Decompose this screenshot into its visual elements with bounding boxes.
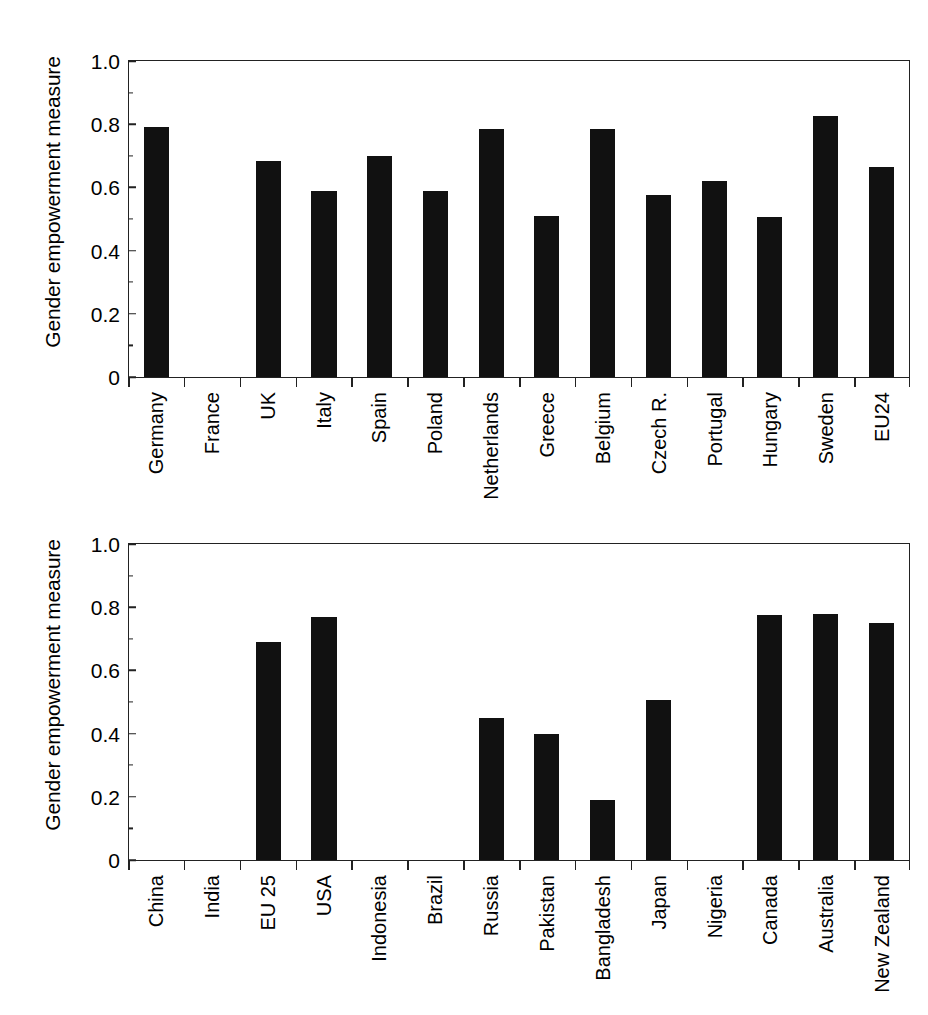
bar-slot — [853, 61, 909, 377]
x-axis-labels-eu: GermanyFranceUKItalySpainPolandNetherlan… — [128, 390, 910, 520]
x-tick-label: Japan — [649, 875, 669, 930]
bar-slot — [519, 61, 575, 377]
x-tick-label: USA — [314, 875, 334, 916]
bar — [479, 718, 504, 860]
bar-slot — [463, 61, 519, 377]
bar-slot — [240, 544, 296, 860]
bar-series-world — [129, 544, 909, 860]
x-tick-mark — [128, 861, 184, 870]
y-tick-mark — [129, 543, 136, 545]
bar-slot — [798, 544, 854, 860]
y-tick-mark — [129, 670, 136, 672]
bar-slot — [296, 544, 352, 860]
plot-area-world: 00.20.40.60.81.0 — [128, 543, 910, 861]
x-tick-label: Spain — [369, 392, 389, 443]
bar-slot — [630, 544, 686, 860]
y-tick-label: 0.6 — [91, 660, 129, 681]
x-tick-mark — [575, 378, 631, 387]
x-label-slot: Hungary — [742, 390, 798, 520]
bar-slot — [798, 61, 854, 377]
x-tick-label: Indonesia — [369, 875, 389, 962]
x-label-slot: Italy — [296, 390, 352, 520]
x-axis-ticks-world — [128, 861, 910, 870]
y-tick-label: 0.4 — [91, 240, 129, 261]
y-tick-mark — [129, 606, 136, 608]
figure-page: Gender empowerment measure 00.20.40.60.8… — [0, 0, 928, 1015]
x-tick-mark — [575, 861, 631, 870]
x-tick-label: Nigeria — [705, 875, 725, 938]
x-tick-mark — [184, 861, 240, 870]
y-tick-mark-minor — [129, 828, 133, 829]
x-tick-label: Italy — [314, 392, 334, 429]
bar-slot — [575, 61, 631, 377]
x-label-slot: USA — [296, 873, 352, 1003]
bar — [144, 127, 169, 377]
bar — [646, 195, 671, 377]
x-label-slot: EU24 — [854, 390, 910, 520]
bar — [702, 181, 727, 377]
x-tick-label: New Zealand — [872, 875, 892, 993]
y-tick-mark-minor — [129, 282, 133, 283]
x-label-slot: Czech R. — [631, 390, 687, 520]
x-tick-mark — [631, 378, 687, 387]
bar-slot — [129, 61, 185, 377]
y-tick-mark-minor — [129, 155, 133, 156]
x-label-slot: Pakistan — [519, 873, 575, 1003]
bar — [534, 734, 559, 860]
x-tick-label: Sweden — [816, 392, 836, 464]
chart-panel-eu: Gender empowerment measure 00.20.40.60.8… — [0, 22, 928, 502]
bar-slot — [575, 544, 631, 860]
y-tick-label: 0.2 — [91, 303, 129, 324]
y-tick-mark — [129, 187, 136, 189]
x-tick-mark — [519, 378, 575, 387]
bar — [534, 216, 559, 377]
y-tick-mark — [129, 60, 136, 62]
bar-slot — [408, 544, 464, 860]
x-tick-label: UK — [258, 392, 278, 420]
bar-slot — [853, 544, 909, 860]
x-tick-mark — [742, 378, 798, 387]
bar — [590, 800, 615, 860]
x-label-slot: Poland — [407, 390, 463, 520]
x-tick-mark — [184, 378, 240, 387]
x-tick-mark — [296, 861, 352, 870]
x-label-slot: Sweden — [798, 390, 854, 520]
x-tick-label: France — [202, 392, 222, 454]
y-tick-label: 1.0 — [91, 51, 129, 72]
x-label-slot: Germany — [128, 390, 184, 520]
x-tick-label: Canada — [760, 875, 780, 945]
x-tick-label: Belgium — [593, 392, 613, 464]
bar-slot — [742, 61, 798, 377]
bar — [813, 614, 838, 860]
x-tick-mark — [798, 861, 854, 870]
bar — [311, 617, 336, 860]
x-tick-label: Hungary — [760, 392, 780, 468]
x-tick-mark — [631, 861, 687, 870]
x-label-slot: Indonesia — [351, 873, 407, 1003]
bar-slot — [742, 544, 798, 860]
y-tick-mark-minor — [129, 218, 133, 219]
y-axis-title-top: Gender empowerment measure — [41, 42, 65, 362]
x-tick-mark — [128, 378, 184, 387]
y-tick-label: 1.0 — [91, 534, 129, 555]
x-tick-mark — [351, 378, 407, 387]
x-tick-label: Bangladesh — [593, 875, 613, 981]
y-tick-mark — [129, 796, 136, 798]
x-tick-mark — [519, 861, 575, 870]
x-tick-label: Greece — [537, 392, 557, 458]
y-tick-label: 0 — [108, 850, 129, 871]
x-label-slot: Australia — [798, 873, 854, 1003]
x-tick-label: Pakistan — [537, 875, 557, 952]
y-axis-title-bottom: Gender empowerment measure — [41, 525, 65, 845]
bar-slot — [296, 61, 352, 377]
y-tick-mark-minor — [129, 701, 133, 702]
x-tick-label: China — [146, 875, 166, 927]
bar — [869, 167, 894, 377]
x-tick-mark — [798, 378, 854, 387]
y-tick-label: 0.8 — [91, 597, 129, 618]
y-tick-mark-minor — [129, 638, 133, 639]
x-tick-label: Australia — [816, 875, 836, 953]
bar-slot — [240, 61, 296, 377]
x-tick-label: Poland — [425, 392, 445, 454]
bar — [590, 129, 615, 377]
